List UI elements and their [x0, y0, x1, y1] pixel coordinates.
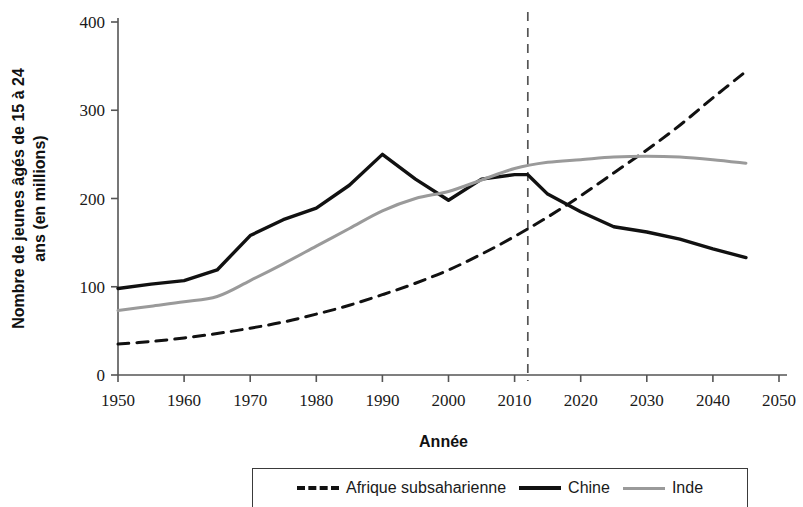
- series-line-chine: [118, 154, 746, 288]
- x-axis-tick-label: 1980: [299, 391, 333, 410]
- y-axis-tick-label: 0: [97, 366, 106, 385]
- legend-label: Afrique subsaharienne: [346, 479, 506, 497]
- legend-swatch-solid: [623, 487, 665, 490]
- legend-swatch-solid: [519, 486, 561, 490]
- y-axis-tick-label: 400: [80, 13, 106, 32]
- x-axis-tick-label: 1990: [365, 391, 399, 410]
- y-axis-tick-label: 300: [80, 101, 106, 120]
- x-axis-tick-label: 2000: [432, 391, 466, 410]
- x-axis-tick-label: 1970: [233, 391, 267, 410]
- x-axis-tick-label: 2040: [696, 391, 730, 410]
- x-axis-tick-label: 2030: [630, 391, 664, 410]
- x-axis-tick-label: 2050: [762, 391, 796, 410]
- legend-swatch-dashed: [297, 486, 339, 490]
- legend-label: Inde: [672, 479, 703, 497]
- x-axis-tick-label: 2020: [564, 391, 598, 410]
- y-axis-title: Nombre de jeunes âgés de 15 à 24: [10, 68, 27, 329]
- legend-item[interactable]: Afrique subsaharienne: [297, 479, 506, 497]
- series-line-afrique-subsaharienne: [118, 71, 746, 344]
- x-axis-tick-label: 1950: [101, 391, 135, 410]
- x-axis-title: Année: [419, 433, 468, 450]
- chart-figure: 0100200300400195019601970198019902000201…: [0, 0, 803, 507]
- y-axis-title: ans (en millions): [31, 135, 48, 261]
- y-axis-tick-label: 200: [80, 190, 106, 209]
- x-axis-tick-label: 1960: [167, 391, 201, 410]
- legend-label: Chine: [568, 479, 610, 497]
- legend-item[interactable]: Chine: [519, 479, 610, 497]
- legend-item[interactable]: Inde: [623, 479, 703, 497]
- chart-legend: Afrique subsaharienneChineInde: [252, 468, 748, 507]
- x-axis-tick-label: 2010: [498, 391, 532, 410]
- y-axis-tick-label: 100: [80, 278, 106, 297]
- line-chart-plot: 0100200300400195019601970198019902000201…: [0, 0, 803, 468]
